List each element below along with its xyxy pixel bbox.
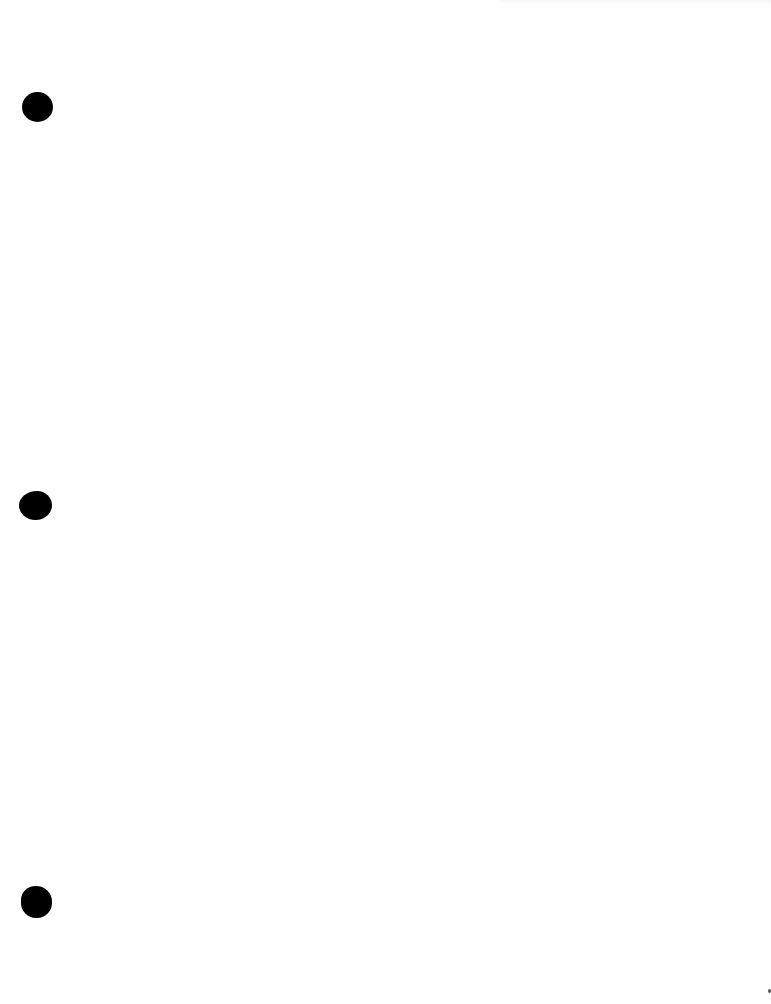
punch-hole-top-icon bbox=[22, 92, 53, 122]
punch-hole-bottom-icon bbox=[21, 886, 52, 918]
blank-scanned-page bbox=[0, 0, 771, 1004]
scan-edge-bleed bbox=[500, 0, 771, 4]
punch-hole-middle-icon bbox=[19, 491, 52, 520]
